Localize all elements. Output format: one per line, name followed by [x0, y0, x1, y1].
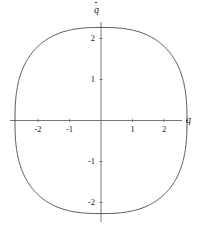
x-axis-label: q	[186, 115, 191, 125]
y-tick-label: 1	[73, 75, 95, 84]
x-tick-label: -1	[59, 125, 81, 134]
x-tick-label: -2	[27, 125, 49, 134]
plot-canvas	[0, 0, 202, 230]
phase-plane-figure: -2 -1 1 2 2 1 -1 -2 q q	[0, 0, 202, 230]
y-axis-label: q	[94, 5, 99, 15]
y-tick-label: -1	[73, 157, 95, 166]
x-tick-label: 1	[122, 125, 144, 134]
y-tick-label: 2	[73, 34, 95, 43]
x-tick-label: 2	[153, 125, 175, 134]
y-tick-label: -2	[73, 198, 95, 207]
